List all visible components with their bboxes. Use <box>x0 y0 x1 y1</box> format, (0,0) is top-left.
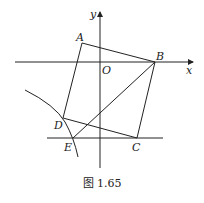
origin-label: O <box>102 64 111 77</box>
figure-caption: 图 1.65 <box>83 177 122 190</box>
point-c-label: C <box>132 141 141 154</box>
point-b-label: B <box>155 50 164 63</box>
point-d-label: D <box>53 119 63 132</box>
figure-canvas: y x O A B C D E 图 1.65 <box>0 0 204 203</box>
segment-be <box>73 62 155 138</box>
point-e-label: E <box>63 141 72 154</box>
x-axis-label: x <box>186 64 193 77</box>
square-abcd <box>63 43 155 138</box>
point-a-label: A <box>75 31 84 44</box>
y-axis-label: y <box>89 8 97 21</box>
